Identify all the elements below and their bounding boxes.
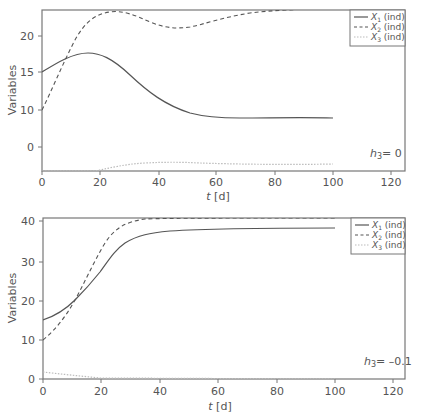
x-tick-label: 60 — [211, 385, 225, 398]
top-legend: X1 (ind) X2 (ind) X3 (ind) — [350, 10, 405, 46]
top-series-x3 — [42, 162, 333, 171]
top-x-axis-title: t [d] — [206, 190, 229, 203]
top-x-axis: 0 20 40 60 80 100 120 — [39, 171, 402, 189]
y-tick-label: 0 — [28, 373, 35, 386]
top-y-axis-title: Variables — [6, 65, 19, 116]
y-tick-label: 30 — [21, 256, 35, 269]
top-y-axis: 20 15 10 0 — [20, 30, 42, 154]
y-tick-label: 40 — [21, 215, 35, 228]
x-tick-label: 120 — [381, 176, 402, 189]
legend-item-x3: X3 (ind) — [370, 32, 405, 43]
figure: 20 15 10 0 0 20 40 60 80 100 120 Variabl… — [0, 0, 434, 419]
x-tick-label: 100 — [323, 176, 344, 189]
y-tick-label: 10 — [21, 334, 35, 347]
x-tick-label: 20 — [94, 385, 108, 398]
top-parameter-annotation: h3= 0 — [370, 147, 402, 161]
y-tick-label: 0 — [27, 141, 34, 154]
y-tick-label: 20 — [20, 30, 34, 43]
y-tick-label: 15 — [20, 66, 34, 79]
x-tick-label: 120 — [383, 385, 404, 398]
bottom-series-x2 — [43, 218, 335, 340]
bottom-series-x3 — [43, 372, 335, 379]
x-tick-label: 60 — [209, 176, 223, 189]
top-chart: 20 15 10 0 0 20 40 60 80 100 120 Variabl… — [6, 9, 405, 203]
x-tick-label: 100 — [325, 385, 346, 398]
x-tick-label: 0 — [39, 176, 46, 189]
bottom-chart: 40 30 20 10 0 0 20 40 60 80 100 120 Vari… — [6, 215, 412, 413]
top-series-x2 — [42, 9, 333, 110]
x-tick-label: 20 — [93, 176, 107, 189]
bottom-y-axis: 40 30 20 10 0 — [21, 215, 43, 386]
bottom-series-x1 — [43, 228, 335, 320]
y-tick-label: 20 — [21, 295, 35, 308]
x-tick-label: 0 — [40, 385, 47, 398]
bottom-y-axis-title: Variables — [6, 273, 19, 324]
top-series-x1 — [42, 53, 333, 118]
y-tick-label: 10 — [20, 104, 34, 117]
bottom-parameter-annotation: h3= –0.1 — [364, 355, 412, 369]
bottom-x-axis-title: t [d] — [208, 400, 231, 413]
x-tick-label: 80 — [270, 385, 284, 398]
legend-item-x3: X3 (ind) — [371, 240, 406, 251]
x-tick-label: 40 — [153, 385, 167, 398]
x-tick-label: 40 — [152, 176, 166, 189]
x-tick-label: 80 — [268, 176, 282, 189]
bottom-legend: X1 (ind) X2 (ind) X3 (ind) — [351, 218, 406, 254]
bottom-x-axis: 0 20 40 60 80 100 120 — [40, 379, 404, 398]
